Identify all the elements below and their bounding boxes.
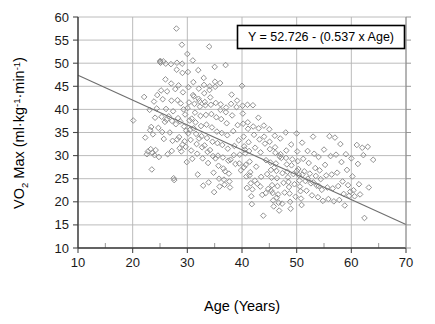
data-point-marker bbox=[217, 80, 223, 86]
data-point-marker bbox=[230, 128, 236, 134]
y-tick-label: 20 bbox=[55, 194, 69, 209]
data-point-marker bbox=[322, 162, 328, 168]
data-point-marker bbox=[318, 176, 324, 182]
data-point-marker bbox=[309, 193, 315, 199]
data-point-marker bbox=[193, 120, 199, 126]
data-point-marker bbox=[130, 118, 136, 124]
data-point-marker bbox=[236, 138, 242, 144]
data-point-marker bbox=[244, 185, 250, 191]
data-point-marker bbox=[306, 160, 312, 166]
data-point-marker bbox=[338, 141, 344, 147]
data-point-marker bbox=[354, 142, 360, 148]
data-point-marker bbox=[201, 90, 207, 96]
data-point-marker bbox=[287, 191, 293, 197]
data-point-marker bbox=[283, 148, 289, 154]
x-axis-title: Age (Years) bbox=[204, 298, 280, 314]
data-point-marker bbox=[275, 183, 281, 189]
data-point-marker bbox=[272, 133, 278, 139]
data-point-marker bbox=[342, 203, 348, 209]
data-point-marker bbox=[149, 167, 155, 173]
y-axis-title: VO2 Max (ml·kg-1·min-1) bbox=[11, 57, 30, 209]
x-axis-tick-labels: 10203040506070 bbox=[71, 255, 413, 270]
x-tick-label: 70 bbox=[399, 255, 413, 270]
data-point-marker bbox=[339, 159, 345, 165]
data-point-marker bbox=[190, 58, 196, 64]
data-point-marker bbox=[185, 69, 191, 75]
data-point-marker bbox=[268, 167, 274, 173]
data-point-marker bbox=[224, 120, 230, 126]
data-point-marker bbox=[227, 179, 233, 185]
data-point-marker bbox=[188, 137, 194, 143]
data-point-marker bbox=[331, 199, 337, 205]
y-tick-label: 60 bbox=[55, 10, 69, 25]
data-point-marker bbox=[203, 112, 209, 118]
data-point-marker bbox=[340, 179, 346, 185]
data-point-marker bbox=[256, 115, 262, 121]
data-point-marker bbox=[250, 187, 256, 193]
y-tick-label: 55 bbox=[55, 33, 69, 48]
regression-equation-box: Y = 52.726 - (0.537 x Age) bbox=[238, 26, 405, 49]
data-point-marker bbox=[362, 215, 368, 221]
data-point-marker bbox=[186, 84, 192, 90]
data-point-marker bbox=[352, 193, 358, 199]
data-point-marker bbox=[332, 135, 338, 141]
data-point-marker bbox=[218, 107, 224, 113]
data-point-marker bbox=[248, 193, 254, 199]
data-point-marker bbox=[305, 148, 311, 154]
data-point-marker bbox=[163, 77, 169, 83]
data-point-marker bbox=[269, 175, 275, 181]
data-point-marker bbox=[255, 181, 261, 187]
data-point-marker bbox=[144, 151, 150, 157]
data-points bbox=[130, 26, 376, 221]
data-point-marker bbox=[326, 196, 332, 202]
data-point-marker bbox=[225, 146, 231, 152]
data-point-marker bbox=[156, 125, 162, 131]
data-point-marker bbox=[333, 152, 339, 158]
data-point-marker bbox=[250, 102, 256, 108]
data-point-marker bbox=[282, 190, 288, 196]
data-point-marker bbox=[273, 150, 279, 156]
data-point-marker bbox=[229, 92, 235, 98]
data-point-marker bbox=[361, 152, 367, 158]
data-point-marker bbox=[289, 156, 295, 162]
data-point-marker bbox=[211, 170, 217, 176]
data-point-marker bbox=[359, 145, 365, 151]
y-axis-title-lead: VO bbox=[11, 188, 27, 209]
data-point-marker bbox=[197, 104, 203, 110]
data-point-marker bbox=[327, 133, 333, 139]
data-point-marker bbox=[315, 194, 321, 200]
y-tick-label: 35 bbox=[55, 125, 69, 140]
data-point-marker bbox=[261, 123, 267, 129]
data-point-marker bbox=[160, 96, 166, 102]
data-point-marker bbox=[224, 132, 230, 138]
data-point-marker bbox=[343, 151, 349, 157]
data-point-marker bbox=[212, 64, 218, 70]
data-point-marker bbox=[158, 88, 164, 94]
data-point-marker bbox=[214, 129, 220, 135]
y-tick-label: 30 bbox=[55, 148, 69, 163]
data-point-marker bbox=[366, 185, 372, 191]
data-point-marker bbox=[286, 184, 292, 190]
data-point-marker bbox=[159, 129, 165, 135]
data-point-marker bbox=[316, 154, 322, 160]
data-point-marker bbox=[192, 110, 198, 116]
data-point-marker bbox=[193, 131, 199, 137]
y-tick-label: 50 bbox=[55, 56, 69, 71]
equation-text: Y = 52.726 - (0.537 x Age) bbox=[248, 30, 394, 44]
data-point-marker bbox=[261, 134, 267, 140]
data-point-marker bbox=[191, 79, 197, 85]
data-point-marker bbox=[269, 182, 275, 188]
data-point-marker bbox=[180, 70, 186, 76]
x-tick-label: 40 bbox=[235, 255, 249, 270]
data-point-marker bbox=[201, 82, 207, 88]
y-axis-title-superscript-2: -1 bbox=[11, 62, 22, 70]
data-point-marker bbox=[189, 156, 195, 162]
data-point-marker bbox=[280, 170, 286, 176]
data-point-marker bbox=[228, 101, 234, 107]
data-point-marker bbox=[152, 115, 158, 121]
data-point-marker bbox=[250, 124, 256, 130]
data-point-marker bbox=[169, 98, 175, 104]
data-point-marker bbox=[179, 42, 185, 48]
data-point-marker bbox=[205, 160, 211, 166]
data-point-marker bbox=[344, 167, 350, 173]
